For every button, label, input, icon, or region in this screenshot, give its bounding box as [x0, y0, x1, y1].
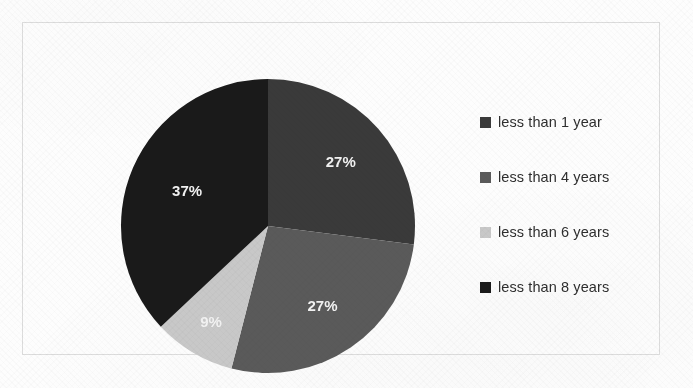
- chart-frame: 27%27%9%37% less than 1 year less than 4…: [22, 22, 660, 355]
- square-marker-icon: [480, 172, 491, 183]
- square-marker-icon: [480, 282, 491, 293]
- legend-item-less-than-4-years[interactable]: less than 4 years: [480, 166, 670, 188]
- pie-chart-svg: 27%27%9%37%: [120, 78, 416, 374]
- legend-item-less-than-8-years[interactable]: less than 8 years: [480, 276, 670, 298]
- pie-data-label: 27%: [307, 297, 337, 314]
- pie-slice-group: [121, 79, 415, 373]
- pie-data-label: 37%: [172, 182, 202, 199]
- square-marker-icon: [480, 117, 491, 128]
- legend-item-less-than-6-years[interactable]: less than 6 years: [480, 221, 670, 243]
- pie-chart: 27%27%9%37%: [120, 78, 416, 374]
- legend-item-label: less than 6 years: [498, 224, 609, 240]
- page-canvas: 27%27%9%37% less than 1 year less than 4…: [0, 0, 693, 388]
- legend-item-label: less than 4 years: [498, 169, 609, 185]
- legend-item-label: less than 8 years: [498, 279, 609, 295]
- square-marker-icon: [480, 227, 491, 238]
- chart-legend: less than 1 year less than 4 years less …: [480, 111, 670, 298]
- pie-data-label: 9%: [200, 313, 222, 330]
- pie-data-label: 27%: [326, 153, 356, 170]
- legend-item-label: less than 1 year: [498, 114, 602, 130]
- legend-item-less-than-1-year[interactable]: less than 1 year: [480, 111, 670, 133]
